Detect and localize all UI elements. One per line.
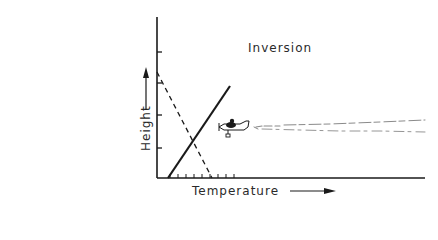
x-axis-arrow [290, 188, 336, 194]
y-axis-label: Height [139, 105, 153, 151]
exhaust-plume [254, 120, 425, 132]
diagram-title: Inversion [248, 41, 312, 55]
x-axis-label: Temperature [191, 184, 279, 198]
airplane-icon [219, 119, 249, 137]
solid-inversion-line [168, 86, 230, 178]
inversion-diagram: Inversion Temperature Height [0, 0, 438, 240]
y-axis-arrow [143, 67, 149, 110]
